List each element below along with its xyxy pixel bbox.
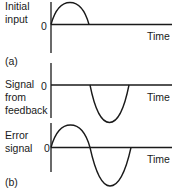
- panel-a-time-label: Time: [147, 30, 170, 42]
- panel-a-marker: (a): [5, 55, 18, 67]
- panel-b-marker: (b): [5, 176, 18, 188]
- panel-a-plot: [51, 2, 172, 53]
- panel-b-error-ylabel-line-2: signal: [5, 142, 32, 154]
- panel-a-ylabel-line-1: Initial: [5, 0, 30, 12]
- panel-b-error-zero-label: 0: [44, 142, 50, 154]
- panel-b-feedback-ylabel-line-1: Signal: [5, 78, 34, 90]
- panel-a-zero-label: 0: [41, 20, 47, 32]
- panel-b-error-ylabel-line-1: Error: [5, 129, 28, 141]
- panel-a-ylabel-line-2: input: [5, 13, 28, 25]
- panel-b-feedback-zero-label: 0: [41, 80, 47, 92]
- panel-b-error-curve: [51, 125, 131, 186]
- panel-b-feedback-ylabel-line-3: feedback: [5, 104, 48, 116]
- panel-a-initial-input-curve: [51, 3, 89, 25]
- panel-b-feedback-time-label: Time: [147, 91, 170, 103]
- panel-b-error-time-label: Time: [147, 153, 170, 165]
- panel-b-feedback-curve: [90, 85, 129, 123]
- panel-b-feedback-ylabel-line-2: from: [5, 91, 26, 103]
